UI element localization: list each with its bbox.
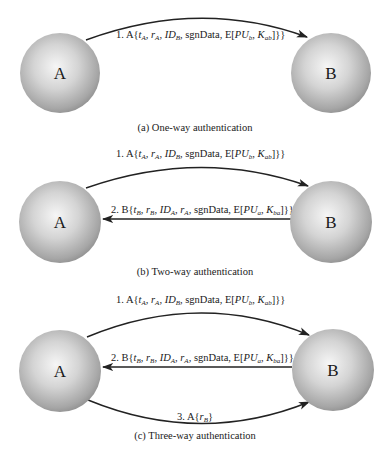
node-a-label: A	[54, 64, 67, 83]
message-1-arrow	[86, 167, 308, 188]
node-a-label: A	[54, 362, 67, 381]
message-2-label: 2. B{tB, rB, IDA, rA, sgnData, E[PUa, Kb…	[111, 204, 294, 217]
node-b-label: B	[325, 213, 336, 232]
panel-three-way: 1. A{tA, rA, IDB, sgnData, E[PUb, Kab]}}…	[19, 294, 374, 442]
caption-one-way: (a) One-way authentication	[138, 122, 254, 134]
message-1-label: 1. A{tA, rA, IDB, sgnData, E[PUb, Kab]}}	[116, 29, 285, 42]
message-1-label: 1. A{tA, rA, IDB, sgnData, E[PUb, Kab]}}	[116, 148, 285, 161]
node-b-label: B	[327, 361, 338, 380]
message-1-arrow	[87, 313, 309, 337]
node-a-label: A	[54, 213, 67, 232]
message-3-label: 3. A{rB}	[177, 411, 213, 424]
message-2-label: 2. B{tB, rB, IDA, rA, sgnData, E[PUa, Kb…	[111, 352, 294, 365]
panel-two-way: 1. A{tA, rA, IDB, sgnData, E[PUb, Kab]}}…	[19, 148, 372, 278]
caption-three-way: (c) Three-way authentication	[134, 430, 256, 442]
panel-one-way: 1. A{tA, rA, IDB, sgnData, E[PUb, Kab]}}…	[20, 18, 371, 134]
node-b-label: B	[325, 64, 336, 83]
message-1-label: 1. A{tA, rA, IDB, sgnData, E[PUb, Kab]}}	[116, 294, 285, 307]
authentication-diagram: 1. A{tA, rA, IDB, sgnData, E[PUb, Kab]}}…	[0, 0, 390, 454]
caption-two-way: (b) Two-way authentication	[137, 266, 254, 278]
